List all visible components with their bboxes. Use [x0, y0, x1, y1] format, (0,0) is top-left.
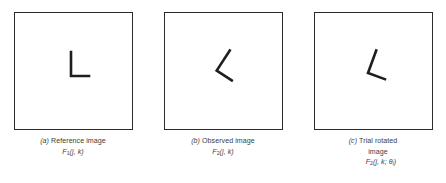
figure-container: (a) Reference image F1(j, k) (b) Observe…: [0, 0, 446, 183]
caption-b-line-1: (b) Observed image: [150, 136, 296, 147]
caption-c: (c) Trial rotated image F2(j, k; θi): [300, 136, 446, 169]
image-frame-c: [314, 12, 433, 130]
caption-c-text: Trial rotated: [359, 137, 397, 145]
caption-c-formula-args-close: ): [394, 158, 396, 166]
caption-b-formula: F2(j, k): [150, 147, 296, 159]
caption-a-line-1: (a) Reference image: [0, 136, 146, 147]
l-shape-icon-b: [205, 43, 251, 89]
l-shape-icon-a: [55, 43, 101, 89]
l-shape-icon-c: [355, 43, 401, 89]
panel-group: (a) Reference image F1(j, k) (b) Observe…: [0, 0, 446, 183]
caption-b: (b) Observed image F2(j, k): [150, 136, 296, 158]
caption-a-formula: F1(j, k): [0, 147, 146, 159]
caption-a-index: (a): [40, 137, 49, 145]
caption-a-text: Reference image: [51, 137, 106, 145]
caption-c-line-1: (c) Trial rotated: [300, 136, 446, 147]
caption-c-formula: F2(j, k; θi): [300, 157, 446, 169]
image-frame-a: [14, 12, 133, 130]
panel-observed-image: (b) Observed image F2(j, k): [150, 0, 296, 183]
caption-a: (a) Reference image F1(j, k): [0, 136, 146, 158]
glyph-wrap-c: [315, 13, 432, 129]
caption-c-index: (c): [349, 137, 357, 145]
glyph-wrap-b: [165, 13, 282, 129]
caption-b-index: (b): [191, 137, 200, 145]
glyph-wrap-a: [15, 13, 132, 129]
caption-a-formula-args: (j, k): [70, 148, 84, 156]
panel-reference-image: (a) Reference image F1(j, k): [0, 0, 146, 183]
caption-c-formula-args: (j, k; θ: [373, 158, 393, 166]
panel-trial-rotated-image: (c) Trial rotated image F2(j, k; θi): [300, 0, 446, 183]
caption-c-line-2: image: [300, 147, 446, 158]
image-frame-b: [164, 12, 283, 130]
caption-b-formula-args: (j, k): [220, 148, 234, 156]
caption-b-text: Observed image: [202, 137, 255, 145]
